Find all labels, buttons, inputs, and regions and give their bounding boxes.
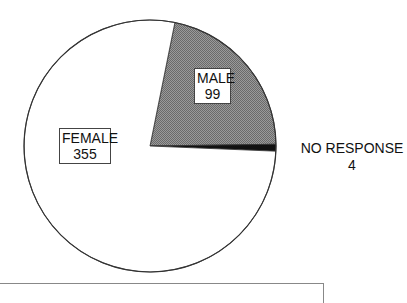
slice-label-no-response-value: 4 — [300, 157, 404, 174]
slice-label-male-name: MALE — [197, 70, 228, 86]
slice-label-no-response-name: NO RESPONSE — [300, 140, 404, 157]
bottom-frame — [0, 283, 324, 303]
slice-label-no-response: NO RESPONSE 4 — [300, 140, 404, 174]
slice-label-female: FEMALE 355 — [59, 128, 111, 164]
slice-label-male-value: 99 — [197, 86, 228, 102]
slice-label-female-value: 355 — [62, 146, 108, 162]
slice-label-male: MALE 99 — [194, 68, 231, 104]
slice-label-female-name: FEMALE — [62, 130, 108, 146]
